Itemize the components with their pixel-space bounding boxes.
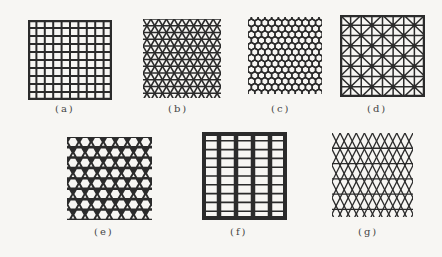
caption-g: (g) — [358, 226, 378, 237]
lattice-rectangular-grid-graphic — [202, 132, 287, 220]
panel-b-triangular-lattice — [143, 19, 221, 98]
lattice-kagome-graphic — [67, 137, 152, 220]
caption-f: (f) — [230, 226, 248, 237]
lattice-square-with-diagonals-graphic — [340, 15, 425, 97]
lattice-square-grid-graphic — [28, 20, 112, 100]
panel-c-honeycomb-lattice — [248, 17, 322, 94]
caption-b: (b) — [168, 103, 188, 114]
caption-e: (e) — [94, 226, 114, 237]
panel-a-square-grid — [28, 20, 112, 100]
lattice-triangular-graphic — [143, 19, 221, 98]
panel-d-diagonal-square-lattice — [340, 15, 425, 97]
panel-e-kagome-lattice — [67, 137, 152, 220]
lattice-honeycomb-graphic — [248, 17, 322, 94]
caption-a: (a) — [55, 103, 75, 114]
caption-d: (d) — [367, 103, 387, 114]
lattice-diamond-with-horizontals-graphic — [332, 133, 413, 217]
panel-f-rectangular-grid — [202, 132, 287, 220]
caption-c: (c) — [271, 103, 290, 114]
panel-g-diamond-lattice — [332, 133, 413, 217]
